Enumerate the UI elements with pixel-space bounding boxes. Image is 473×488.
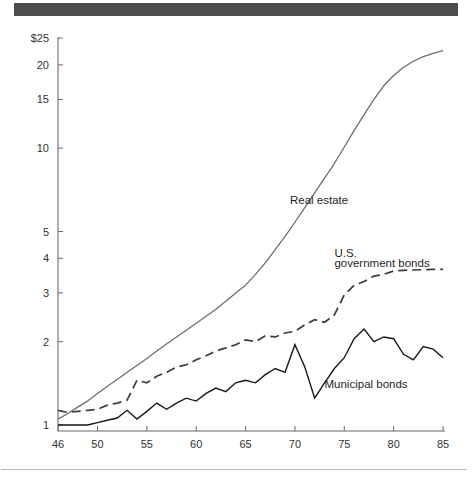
x-tick-label: 70 (289, 438, 301, 450)
x-tick-label: 85 (437, 438, 449, 450)
x-tick-label: 50 (91, 438, 103, 450)
x-tick-label: 80 (388, 438, 400, 450)
series-line-u-s-government-bonds (58, 269, 443, 412)
x-tick-label: 65 (239, 438, 251, 450)
chart-series-group (58, 51, 443, 425)
series-inline-label: Municipal bonds (325, 378, 408, 390)
y-tick-label: 4 (43, 252, 49, 264)
y-tick-label: 20 (37, 59, 49, 71)
series-inline-label: government bonds (334, 257, 430, 269)
series-line-real-estate (58, 51, 443, 419)
x-tick-label: 60 (190, 438, 202, 450)
x-tick-label: 55 (141, 438, 153, 450)
line-chart-plot: 12345101520$25 465055606570758085 Real e… (0, 0, 473, 488)
x-axis-ticks: 465055606570758085 (52, 426, 449, 450)
y-tick-label: $25 (31, 32, 49, 44)
y-tick-label: 1 (43, 419, 49, 431)
chart-axes (58, 37, 445, 431)
y-tick-label: 5 (43, 226, 49, 238)
chart-figure: 12345101520$25 465055606570758085 Real e… (0, 0, 473, 488)
y-tick-label: 3 (43, 287, 49, 299)
x-tick-label: 46 (52, 438, 64, 450)
series-inline-label: Real estate (290, 194, 348, 206)
y-tick-label: 2 (43, 336, 49, 348)
x-tick-label: 75 (338, 438, 350, 450)
y-tick-label: 10 (37, 142, 49, 154)
footer-divider (1, 469, 467, 470)
series-labels-group: Real estateU.S.government bondsMunicipal… (290, 194, 430, 390)
y-tick-label: 15 (37, 93, 49, 105)
